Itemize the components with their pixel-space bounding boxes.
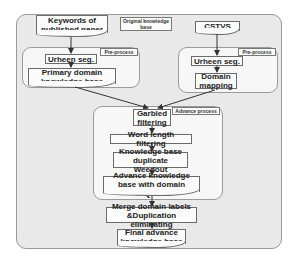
flow-arrows	[0, 0, 296, 260]
